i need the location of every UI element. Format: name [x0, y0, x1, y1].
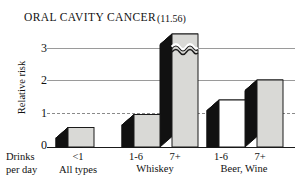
- x-group-label-beerwine: Beer, Wine: [206, 163, 282, 176]
- x-tick-label-whiskey-1-6: 1-6: [119, 151, 153, 164]
- y-tick-label-1: 1: [33, 107, 47, 119]
- bar-beerwine-7plus: [245, 80, 283, 147]
- x-group-label-whiskey: Whiskey: [122, 163, 188, 176]
- y-tick-label-3: 3: [33, 42, 47, 54]
- x-group-label-all-types: All types: [59, 164, 97, 175]
- bar-value-annotation: (11.56): [157, 13, 186, 24]
- plot-area: [47, 26, 295, 148]
- bar-all-types-lt1: [56, 128, 94, 148]
- y-tick-label-2: 2: [33, 74, 47, 86]
- x-tick-label-beerwine-1-6: 1-6: [204, 151, 238, 164]
- chart-title: ORAL CAVITY CANCER: [24, 11, 156, 23]
- x-corner-label-line1: Drinks: [6, 151, 35, 162]
- y-axis: Relative risk: [9, 48, 23, 144]
- bar-beerwine-1-6: [207, 100, 245, 147]
- x-corner-label-line2: per day: [6, 164, 37, 175]
- x-tick-label-beerwine-7plus: 7+: [243, 151, 277, 164]
- y-axis-label: Relative risk: [16, 46, 27, 130]
- x-tick-label-whiskey-7plus: 7+: [158, 151, 192, 164]
- chart-container: ORAL CAVITY CANCER Relative risk 3 2 1 0…: [0, 0, 300, 182]
- bar-whiskey-7plus: [160, 34, 198, 147]
- bar-whiskey-1-6: [122, 115, 160, 148]
- x-axis-labels: Drinks per day <1 All types 1-6 7+ Whisk…: [0, 149, 300, 182]
- bars-layer: [47, 26, 295, 148]
- x-tick-label-all-types-lt1: <1: [72, 151, 83, 162]
